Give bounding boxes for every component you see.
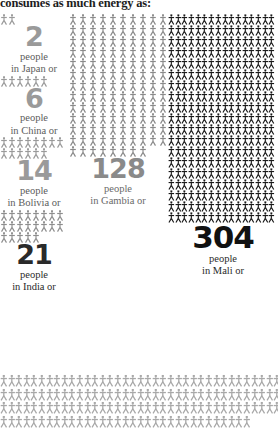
figure-block-mali xyxy=(168,14,278,223)
value-japan: 2 xyxy=(0,25,68,50)
person-figure-icon xyxy=(78,25,88,36)
person-figure-icon xyxy=(16,210,24,221)
person-figure-icon xyxy=(268,179,275,190)
person-figure-icon xyxy=(78,47,88,58)
group-japan: 2 people in Japan or xyxy=(0,14,68,76)
person-figure-icon xyxy=(201,135,208,146)
person-figure-icon xyxy=(108,36,118,47)
person-figure-icon xyxy=(195,80,202,91)
person-figure-icon xyxy=(138,124,148,135)
person-figure-icon xyxy=(148,58,158,69)
person-figure-icon xyxy=(188,157,195,168)
person-figure-icon xyxy=(262,135,269,146)
person-figure-icon xyxy=(190,401,198,415)
person-figure-icon xyxy=(159,388,167,402)
person-figure-icon xyxy=(268,190,275,201)
person-figure-icon xyxy=(201,91,208,102)
person-figure-icon xyxy=(215,168,222,179)
person-figure-icon xyxy=(148,91,158,102)
person-figure-icon xyxy=(268,47,275,58)
person-figure-icon xyxy=(159,415,167,429)
person-figure-icon xyxy=(235,401,243,415)
person-figure-icon xyxy=(255,157,262,168)
person-figure-icon xyxy=(201,113,208,124)
person-figure-icon xyxy=(91,401,99,415)
person-figure-icon xyxy=(78,91,88,102)
person-figure-icon xyxy=(222,14,229,25)
person-figure-icon xyxy=(255,36,262,47)
person-figure-icon xyxy=(197,388,205,402)
person-figure-icon xyxy=(248,25,255,36)
person-figure-icon xyxy=(56,137,64,148)
person-figure-icon xyxy=(255,14,262,25)
person-figure-icon xyxy=(228,168,235,179)
person-figure-icon xyxy=(8,76,16,87)
person-figure-icon xyxy=(235,47,242,58)
person-figure-icon xyxy=(148,69,158,80)
person-figure-icon xyxy=(255,179,262,190)
person-figure-icon xyxy=(195,113,202,124)
person-figure-icon xyxy=(167,388,175,402)
person-figure-icon xyxy=(222,91,229,102)
person-figure-icon xyxy=(88,113,98,124)
person-figure-icon xyxy=(168,146,175,157)
person-figure-icon xyxy=(138,47,148,58)
person-figure-icon xyxy=(118,135,128,146)
person-figure-icon xyxy=(8,210,16,221)
person-figure-icon xyxy=(188,168,195,179)
person-figure-icon xyxy=(152,415,160,429)
person-figure-icon xyxy=(128,124,138,135)
person-figure-icon xyxy=(195,14,202,25)
person-figure-icon xyxy=(88,80,98,91)
person-figure-icon xyxy=(220,401,228,415)
person-figure-icon xyxy=(248,36,255,47)
person-figure-icon xyxy=(159,374,167,388)
person-figure-icon xyxy=(242,25,249,36)
person-figure-icon xyxy=(68,374,76,388)
person-figure-icon xyxy=(268,201,275,212)
person-figure-icon xyxy=(235,135,242,146)
person-figure-icon xyxy=(248,179,255,190)
column-right: 304 people in Mali or xyxy=(168,14,278,277)
person-figure-icon xyxy=(99,374,107,388)
person-figure-icon xyxy=(68,113,78,124)
person-figure-icon xyxy=(68,69,78,80)
person-figure-icon xyxy=(175,69,182,80)
person-figure-icon xyxy=(201,146,208,157)
person-figure-icon xyxy=(228,201,235,212)
person-figure-icon xyxy=(108,135,118,146)
person-figure-icon xyxy=(38,374,46,388)
person-figure-icon xyxy=(248,168,255,179)
person-figure-icon xyxy=(98,135,108,146)
person-figure-icon xyxy=(248,190,255,201)
person-figure-icon xyxy=(68,91,78,102)
person-figure-icon xyxy=(262,124,269,135)
person-figure-icon xyxy=(197,415,205,429)
person-figure-icon xyxy=(181,91,188,102)
person-figure-icon xyxy=(56,221,64,232)
person-figure-icon xyxy=(243,388,251,402)
person-figure-icon xyxy=(188,190,195,201)
person-figure-icon xyxy=(208,14,215,25)
person-figure-icon xyxy=(228,190,235,201)
person-figure-icon xyxy=(188,47,195,58)
person-figure-icon xyxy=(190,388,198,402)
person-figure-icon xyxy=(222,69,229,80)
person-figure-icon xyxy=(248,113,255,124)
person-figure-icon xyxy=(61,388,69,402)
person-figure-icon xyxy=(268,80,275,91)
person-figure-icon xyxy=(195,69,202,80)
person-figure-icon xyxy=(268,113,275,124)
person-figure-icon xyxy=(78,124,88,135)
person-figure-icon xyxy=(148,124,158,135)
group-india: 21 people in India or xyxy=(0,210,68,294)
person-figure-icon xyxy=(122,401,130,415)
person-figure-icon xyxy=(68,401,76,415)
person-figure-icon xyxy=(88,102,98,113)
person-figure-icon xyxy=(201,58,208,69)
person-figure-icon xyxy=(181,113,188,124)
person-figure-icon xyxy=(46,401,54,415)
person-figure-icon xyxy=(262,80,269,91)
person-figure-icon xyxy=(128,102,138,113)
person-figure-icon xyxy=(84,374,92,388)
